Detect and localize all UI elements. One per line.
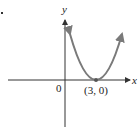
origin-label: 0: [56, 83, 62, 94]
vertex-point: [94, 78, 98, 82]
graph-canvas: [0, 0, 139, 127]
x-axis-label: x: [132, 75, 137, 86]
bullet-mark: [1, 12, 3, 14]
vertex-label: (3, 0): [84, 85, 108, 96]
parabola-curve: [70, 34, 122, 80]
y-axis-label: y: [62, 4, 67, 15]
